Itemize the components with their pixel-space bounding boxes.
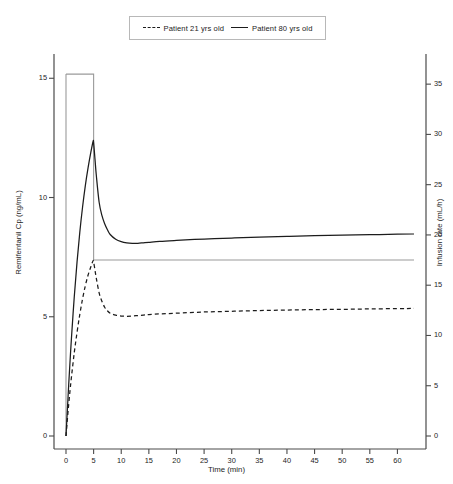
curve-patient-80	[66, 140, 414, 436]
chart-figure: Patient 21 yrs old Patient 80 yrs old Re…	[0, 0, 453, 484]
curve-patient-21	[66, 260, 414, 436]
plot-area	[0, 0, 453, 484]
infusion-rate-step-line	[66, 74, 414, 260]
